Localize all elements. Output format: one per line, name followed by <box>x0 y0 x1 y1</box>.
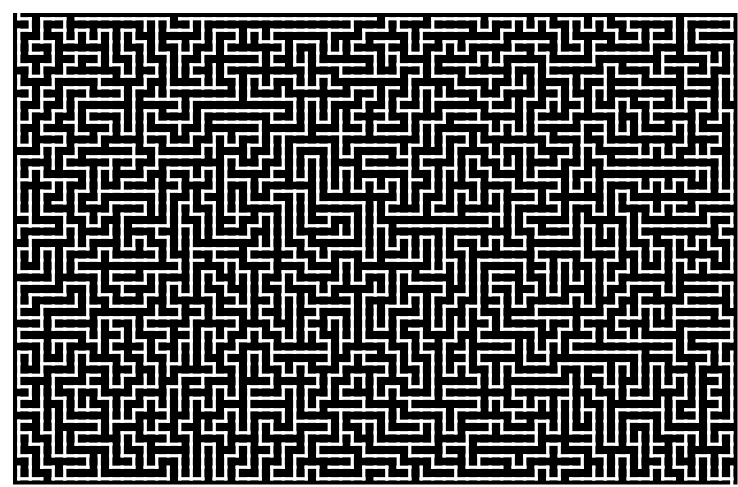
maze-canvas <box>0 0 738 487</box>
maze-page <box>0 0 738 487</box>
maze-figure <box>0 0 738 487</box>
